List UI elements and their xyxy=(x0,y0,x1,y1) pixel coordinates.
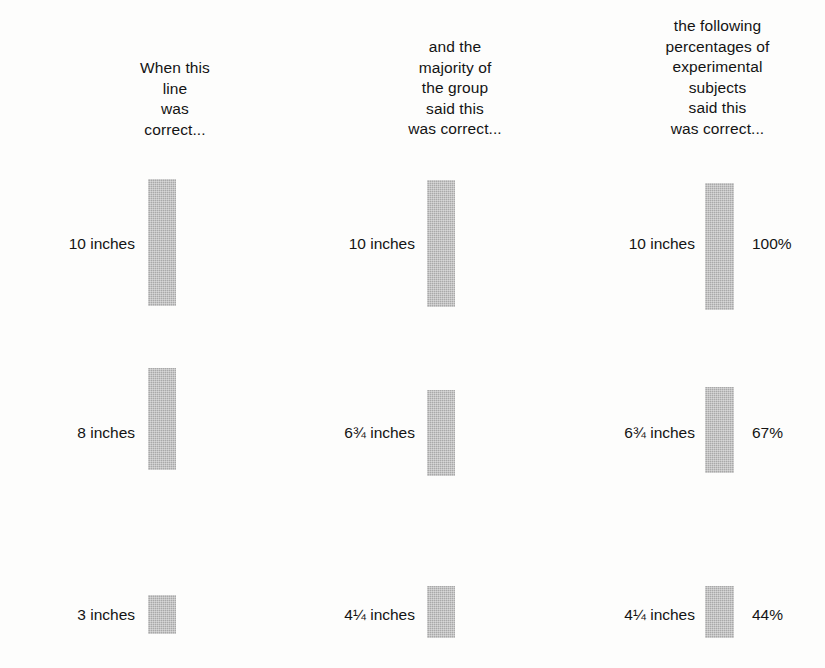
group-answer-label-row-1: 10 inches xyxy=(349,235,415,253)
stimulus-bar-row-3 xyxy=(148,595,176,634)
subject-agreement-label-row-3: 4¼ inches xyxy=(624,606,695,624)
stimulus-bar-row-2 xyxy=(148,368,176,470)
group-answer-bar-row-3 xyxy=(427,586,455,638)
percentage-label-row-1: 100% xyxy=(752,235,792,253)
stimulus-label-row-1: 10 inches xyxy=(69,235,135,253)
percentage-label-row-2: 67% xyxy=(752,424,783,442)
subject-agreement-label-row-2: 6¾ inches xyxy=(624,424,695,442)
group-answer-bar-row-2 xyxy=(427,390,455,476)
asch-conformity-figure: When this line was correct... and the ma… xyxy=(0,0,825,668)
column-header-group-answer: and the majority of the group said this … xyxy=(340,37,570,140)
subject-agreement-bar-row-3 xyxy=(705,586,734,638)
column-header-stimulus: When this line was correct... xyxy=(60,58,290,140)
stimulus-bar-row-1 xyxy=(148,179,176,306)
subject-agreement-bar-row-1 xyxy=(705,183,734,310)
group-answer-bar-row-1 xyxy=(427,180,455,307)
group-answer-label-row-2: 6¾ inches xyxy=(344,424,415,442)
subject-agreement-label-row-1: 10 inches xyxy=(629,235,695,253)
column-header-subject-agreement: the following percentages of experimenta… xyxy=(605,16,825,139)
stimulus-label-row-3: 3 inches xyxy=(77,606,135,624)
subject-agreement-bar-row-2 xyxy=(705,387,734,473)
percentage-label-row-3: 44% xyxy=(752,606,783,624)
group-answer-label-row-3: 4¼ inches xyxy=(344,606,415,624)
stimulus-label-row-2: 8 inches xyxy=(77,424,135,442)
